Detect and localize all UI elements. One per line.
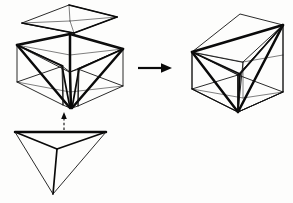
- transform-right-arrow: [138, 63, 172, 73]
- bottom-tetrahedron-piece: [15, 132, 106, 194]
- top-pyramid-piece: [22, 5, 117, 33]
- cube-decomposition-diagram: [0, 0, 293, 203]
- insert-up-arrow: [61, 112, 67, 130]
- notched-cube-body: [17, 34, 123, 108]
- exploded-cube-group: [15, 5, 123, 194]
- assembled-cube-with-inscribed-tetrahedron: [192, 14, 283, 112]
- figure-root: [0, 0, 293, 203]
